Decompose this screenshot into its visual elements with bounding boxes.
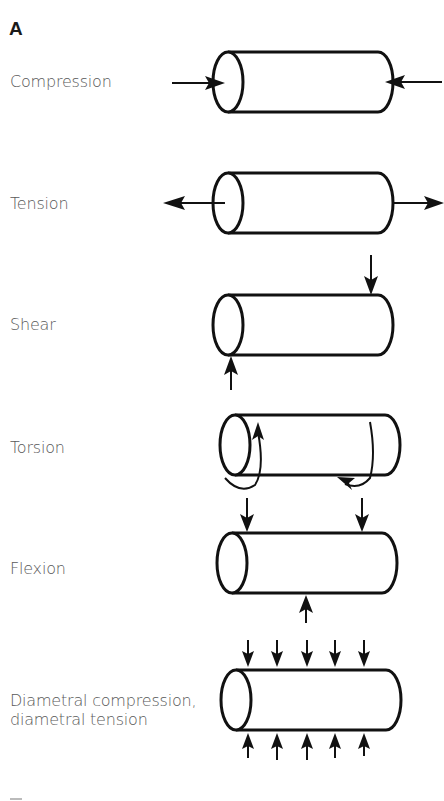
cylinder-diagram <box>0 0 444 801</box>
arrow-shear-down <box>364 255 378 295</box>
arrows-diametral-bottom <box>242 733 370 760</box>
cylinder-shear <box>213 295 393 355</box>
cylinder-diametral <box>221 670 401 730</box>
cylinder-flexion <box>217 533 397 593</box>
arrows-diametral-top <box>242 640 370 667</box>
cylinder-tension <box>213 173 393 233</box>
arrow-flexion-down-right <box>355 498 369 532</box>
arrow-shear-up <box>224 356 238 390</box>
arrow-flexion-down-left <box>240 498 254 532</box>
cropped-panel-mark <box>10 798 22 800</box>
arrow-tension-right <box>393 196 444 210</box>
cylinder-compression <box>213 52 393 112</box>
arrow-flexion-up <box>299 595 313 623</box>
